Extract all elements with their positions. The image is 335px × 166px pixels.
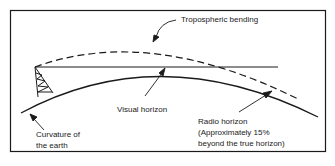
- visual-horizon-label: Visual horizon: [117, 105, 167, 115]
- radio-horizon-label-line2: (Approximately 15%: [198, 128, 270, 138]
- radio-horizon-leader-arrow: [239, 95, 266, 112]
- arrowhead-icon: [159, 68, 165, 76]
- curvature-label-line1: Curvature of: [36, 130, 80, 140]
- arrowhead-icon: [153, 35, 159, 42]
- curvature-label-line2: the earth: [36, 141, 68, 151]
- arrowhead-icon: [30, 114, 37, 121]
- radio-horizon-label-line1: Radio horizon: [198, 117, 247, 127]
- radio-horizon-label-line3: beyond the true horizon): [198, 139, 285, 149]
- antenna-tower-icon: [35, 67, 53, 97]
- tropospheric-bending-label: Tropospheric bending: [181, 15, 258, 25]
- curvature-leader-arrow: [34, 119, 44, 130]
- earth-curvature-line: [21, 76, 318, 117]
- tropospheric-leader-arrow: [156, 20, 176, 37]
